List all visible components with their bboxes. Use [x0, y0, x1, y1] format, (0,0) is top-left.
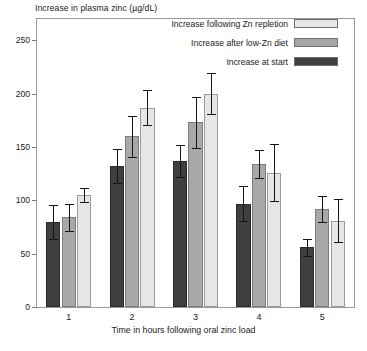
- error-bar-cap-lower: [80, 202, 89, 203]
- error-bar-cap-upper: [207, 73, 216, 74]
- error-bar-cap-upper: [318, 196, 327, 197]
- y-axis-tick: [32, 147, 37, 148]
- bar: [204, 94, 218, 307]
- error-bar: [243, 186, 244, 220]
- error-bar-cap-lower: [239, 221, 248, 222]
- error-bar-cap-lower: [207, 114, 216, 115]
- error-bar: [147, 90, 148, 124]
- error-bar-cap-lower: [113, 183, 122, 184]
- error-bar: [307, 239, 308, 256]
- y-axis-label: 50: [0, 249, 30, 259]
- bar: [77, 195, 91, 307]
- legend-label: Increase after low-Zn diet: [191, 38, 288, 48]
- error-bar-cap-upper: [239, 186, 248, 187]
- x-axis-label: 3: [176, 312, 216, 322]
- legend-item: Increase at start: [98, 54, 338, 69]
- figure-root: Increase in plasma zinc (µg/dL) Increase…: [0, 0, 367, 351]
- legend: Increase following Zn repletionIncrease …: [98, 16, 338, 73]
- x-axis-label: 5: [302, 312, 342, 322]
- error-bar-cap-upper: [65, 204, 74, 205]
- y-axis-label: 150: [0, 142, 30, 152]
- error-bar-cap-upper: [255, 150, 264, 151]
- error-bar: [322, 196, 323, 222]
- y-axis-label: 250: [0, 35, 30, 45]
- error-bar: [338, 199, 339, 242]
- error-bar-cap-upper: [113, 149, 122, 150]
- y-axis-tick: [32, 40, 37, 41]
- y-axis-label: 0: [0, 302, 30, 312]
- y-axis-label: 200: [0, 89, 30, 99]
- error-bar: [180, 145, 181, 177]
- error-bar-cap-lower: [49, 239, 58, 240]
- bar: [110, 166, 124, 307]
- bar: [140, 108, 154, 307]
- bar: [173, 161, 187, 307]
- error-bar-cap-lower: [318, 222, 327, 223]
- error-bar-cap-lower: [303, 256, 312, 257]
- error-bar-cap-lower: [65, 231, 74, 232]
- bar: [315, 209, 329, 307]
- legend-swatch: [294, 38, 338, 47]
- y-axis-tick: [32, 94, 37, 95]
- legend-swatch: [294, 57, 338, 66]
- bar: [188, 122, 202, 307]
- error-bar-cap-upper: [192, 97, 201, 98]
- error-bar-cap-lower: [143, 125, 152, 126]
- legend-item: Increase after low-Zn diet: [98, 35, 338, 50]
- error-bar: [69, 204, 70, 232]
- y-axis-tick: [32, 254, 37, 255]
- x-axis-label: 1: [49, 312, 89, 322]
- error-bar-cap-lower: [176, 177, 185, 178]
- y-axis-tick: [32, 200, 37, 201]
- error-bar-cap-upper: [80, 188, 89, 189]
- figure-caption-partial: [0, 343, 367, 351]
- x-axis-label: 4: [239, 312, 279, 322]
- error-bar-cap-lower: [192, 148, 201, 149]
- error-bar-cap-upper: [128, 116, 137, 117]
- y-axis-tick: [32, 307, 37, 308]
- error-bar-cap-upper: [334, 199, 343, 200]
- x-axis-title: Time in hours following oral zinc load: [0, 325, 367, 335]
- error-bar-cap-upper: [270, 144, 279, 145]
- y-axis-title: Increase in plasma zinc (µg/dL): [35, 3, 157, 13]
- bar: [125, 136, 139, 307]
- legend-label: Increase at start: [226, 57, 288, 67]
- error-bar: [211, 73, 212, 114]
- error-bar-cap-upper: [49, 205, 58, 206]
- error-bar: [274, 144, 275, 202]
- legend-swatch: [294, 19, 338, 28]
- error-bar: [259, 150, 260, 178]
- legend-label: Increase following Zn repletion: [171, 19, 288, 29]
- error-bar-cap-upper: [176, 145, 185, 146]
- error-bar: [117, 149, 118, 183]
- error-bar-cap-upper: [303, 239, 312, 240]
- error-bar: [84, 188, 85, 203]
- x-axis-label: 2: [112, 312, 152, 322]
- y-axis-label: 100: [0, 195, 30, 205]
- error-bar: [196, 97, 197, 148]
- error-bar: [132, 116, 133, 157]
- error-bar: [53, 205, 54, 239]
- error-bar-cap-lower: [270, 201, 279, 202]
- legend-item: Increase following Zn repletion: [98, 16, 338, 31]
- error-bar-cap-upper: [143, 90, 152, 91]
- error-bar-cap-lower: [255, 178, 264, 179]
- bar: [252, 164, 266, 307]
- error-bar-cap-lower: [334, 242, 343, 243]
- error-bar-cap-lower: [128, 157, 137, 158]
